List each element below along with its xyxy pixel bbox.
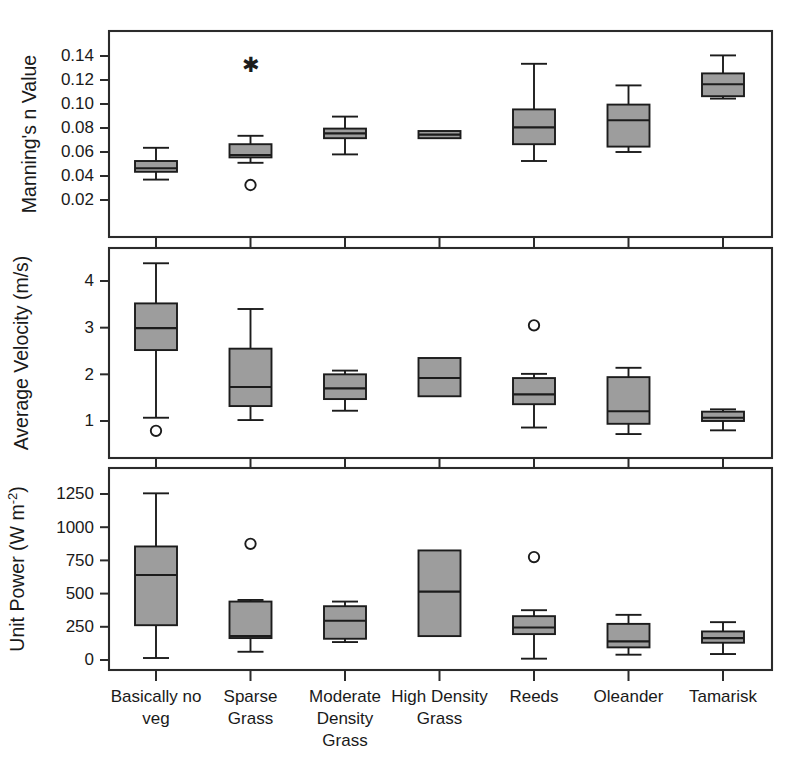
outlier-marker [529, 552, 539, 562]
panel-1: 0.020.040.060.080.100.120.14Manning's n … [18, 31, 772, 237]
outlier-marker [151, 426, 161, 436]
chart-canvas: 0.020.040.060.080.100.120.14Manning's n … [0, 0, 802, 767]
box-plot-group [702, 55, 744, 98]
y-tick-label: 1250 [56, 484, 94, 503]
box-plot-group [702, 622, 744, 654]
extreme-marker: ✱ [242, 53, 260, 76]
x-category-label: Basically no [111, 687, 202, 706]
box-plot-group [135, 263, 177, 436]
panel-2: 1234Average Velocity (m/s) [10, 248, 772, 458]
y-tick-label: 0.10 [61, 94, 94, 113]
box-iqr [608, 624, 650, 648]
box-plot-group [608, 368, 650, 434]
y-tick-label: 0.12 [61, 70, 94, 89]
panel-3: 025050075010001250Unit Power (W m-2) [5, 468, 772, 670]
box-plot-group [419, 550, 461, 636]
box-plot-group [324, 117, 366, 155]
y-tick-label: 1000 [56, 518, 94, 537]
outlier-marker [245, 539, 255, 549]
box-plot-group [513, 320, 555, 427]
y-tick-label: 0.04 [61, 166, 94, 185]
x-axis: Basically novegSparseGrassModerateDensit… [111, 670, 758, 750]
box-plot-group [230, 309, 272, 420]
box-plot-figure: 0.020.040.060.080.100.120.14Manning's n … [0, 0, 802, 767]
x-category-label: Moderate [309, 687, 381, 706]
y-tick-label: 0.14 [61, 46, 94, 65]
y-tick-label: 0.08 [61, 118, 94, 137]
x-category-label: Tamarisk [689, 687, 758, 706]
box-iqr [419, 550, 461, 636]
box-iqr [324, 374, 366, 399]
y-tick-label: 500 [66, 584, 94, 603]
outlier-marker [245, 180, 255, 190]
box-plot-group [513, 552, 555, 659]
box-plot-group [324, 602, 366, 643]
x-category-label: Grass [228, 709, 273, 728]
box-iqr [324, 606, 366, 639]
box-plot-group [513, 64, 555, 161]
x-category-label: Oleander [594, 687, 664, 706]
x-category-label: Sparse [224, 687, 278, 706]
y-tick-label: 2 [85, 365, 94, 384]
box-plot-group [135, 493, 177, 658]
x-category-label: Grass [417, 709, 462, 728]
box-iqr [513, 616, 555, 634]
box-iqr [230, 349, 272, 406]
x-category-label: veg [142, 709, 169, 728]
box-iqr [230, 602, 272, 639]
y-tick-label: 250 [66, 617, 94, 636]
box-iqr [135, 161, 177, 172]
box-iqr [608, 105, 650, 147]
y-tick-label: 0.02 [61, 190, 94, 209]
outlier-marker [529, 320, 539, 330]
y-tick-label: 3 [85, 318, 94, 337]
box-iqr [608, 377, 650, 424]
box-plot-group: ✱ [230, 53, 272, 190]
box-iqr [513, 378, 555, 404]
x-category-label: Density [317, 709, 374, 728]
panel-frame [109, 248, 772, 458]
y-axis-title: Unit Power (W m-2) [5, 486, 28, 651]
y-axis-title: Average Velocity (m/s) [10, 256, 32, 451]
box-plot-group [608, 85, 650, 152]
y-tick-label: 0 [85, 650, 94, 669]
box-plot-group [419, 131, 461, 138]
box-plot-group [135, 148, 177, 180]
box-plot-group [324, 371, 366, 411]
box-plot-group [608, 615, 650, 655]
y-tick-label: 1 [85, 411, 94, 430]
x-category-label: High Density [391, 687, 488, 706]
y-tick-label: 0.06 [61, 142, 94, 161]
x-category-label: Reeds [509, 687, 558, 706]
box-iqr [135, 303, 177, 350]
y-tick-label: 750 [66, 551, 94, 570]
box-iqr [135, 546, 177, 625]
x-category-label: Grass [322, 731, 367, 750]
box-plot-group [702, 409, 744, 430]
box-plot-group [230, 539, 272, 652]
y-axis-title: Manning's n Value [18, 55, 40, 213]
box-iqr [702, 412, 744, 421]
y-tick-label: 4 [85, 271, 94, 290]
box-plot-group [419, 358, 461, 396]
